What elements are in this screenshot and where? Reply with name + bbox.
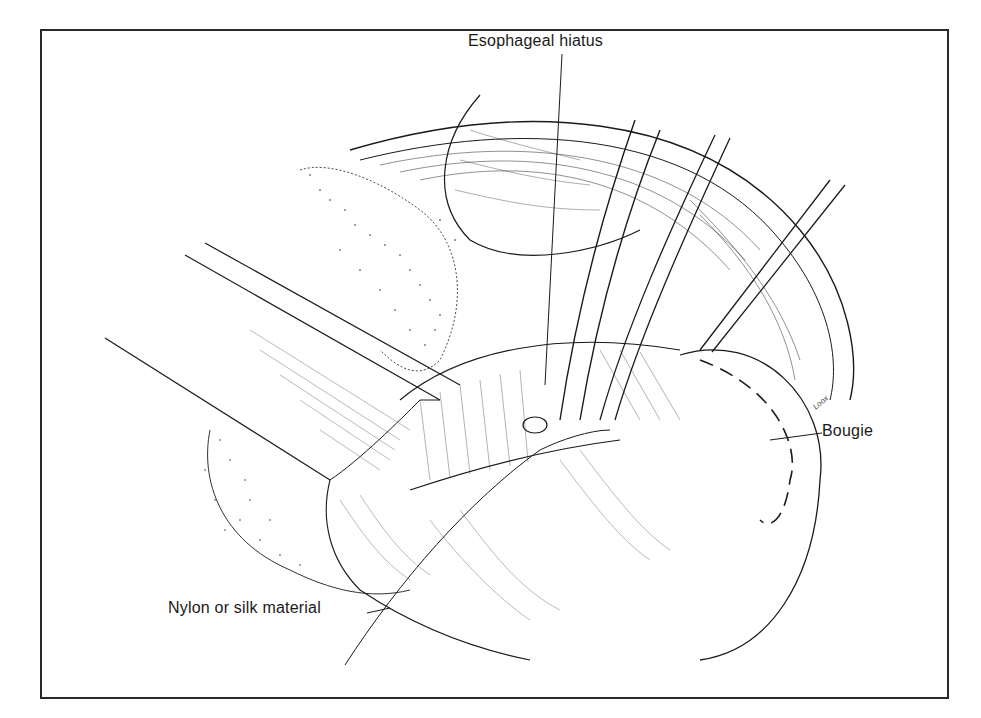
label-bougie: Bougie <box>822 422 873 440</box>
leader-bougie <box>770 433 822 440</box>
surgical-illustration <box>0 0 981 718</box>
label-suture-material: Nylon or silk material <box>168 599 321 617</box>
label-esophageal-hiatus: Esophageal hiatus <box>468 32 603 50</box>
leader-esophageal-hiatus <box>545 54 562 385</box>
leader-suture <box>367 608 390 613</box>
